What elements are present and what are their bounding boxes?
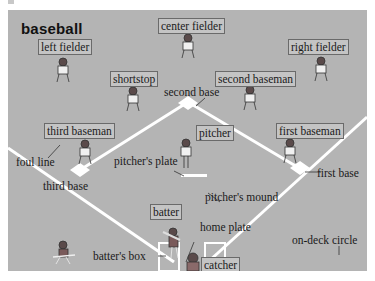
label-on-deck-circle: on-deck circle — [292, 233, 357, 247]
tag-left-fielder: left fielder — [38, 39, 92, 55]
label-second-base: second base — [164, 85, 219, 99]
tag-third-baseman: third baseman — [44, 123, 115, 139]
tag-catcher: catcher — [201, 257, 240, 271]
diagram-title: baseball — [21, 20, 83, 37]
label-pitchers-mound: pitcher's mound — [205, 190, 278, 204]
player-right-fielder — [315, 57, 327, 81]
tag-center-fielder: center fielder — [158, 18, 225, 34]
player-pitcher — [181, 139, 191, 168]
player-shortstop — [127, 87, 139, 111]
label-pitchers-plate: pitcher's plate — [114, 154, 178, 168]
player-second-baseman — [244, 86, 256, 110]
player-third-baseman — [79, 140, 91, 164]
tag-shortstop: shortstop — [110, 71, 158, 87]
tag-batter: batter — [150, 204, 182, 220]
tag-pitcher: pitcher — [196, 125, 234, 141]
corner-mark — [8, 0, 14, 4]
label-third-base: third base — [43, 179, 88, 193]
label-foul-line: foul line — [16, 155, 55, 169]
player-catcher — [187, 253, 199, 271]
player-left-fielder — [57, 58, 69, 82]
label-batters-box: batter's box — [93, 249, 146, 263]
label-first-base: first base — [317, 166, 359, 180]
baseball-field: baseball center fielder left fielder rig… — [8, 10, 367, 271]
player-center-fielder — [182, 34, 194, 58]
tag-first-baseman: first baseman — [276, 123, 344, 139]
tag-second-baseman: second baseman — [215, 71, 296, 87]
player-on-deck — [53, 241, 75, 264]
pitchers-plate-shape — [181, 174, 207, 177]
label-home-plate: home plate — [200, 220, 251, 234]
tag-right-fielder: right fielder — [288, 39, 349, 55]
